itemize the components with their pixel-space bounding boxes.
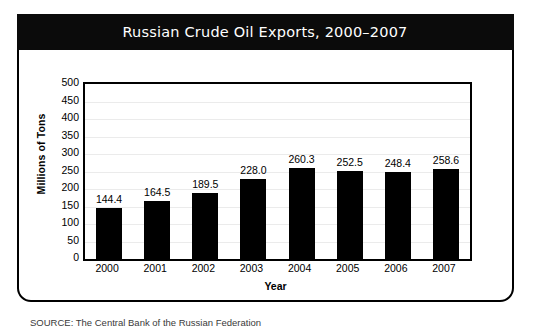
y-axis-tick-label: 400 [61, 111, 79, 123]
x-axis-tick-label: 2003 [240, 262, 263, 274]
x-axis-tick-label: 2001 [144, 262, 167, 274]
y-axis-tick-label: 200 [61, 181, 79, 193]
y-axis-tick-label: 300 [61, 146, 79, 158]
bar[interactable] [144, 201, 170, 259]
bar-value-label: 189.5 [192, 178, 218, 190]
chart-title-banner: Russian Crude Oil Exports, 2000–2007 [17, 14, 514, 50]
bar[interactable] [337, 171, 363, 259]
chart-card: Russian Crude Oil Exports, 2000–2007 Mil… [17, 14, 514, 302]
plot-region: Millions of Tons 50045040035030025020015… [19, 52, 511, 301]
y-axis-tick-label: 50 [67, 234, 79, 246]
y-axis-title: Millions of Tons [35, 99, 47, 209]
page-title: Russian Crude Oil Exports, 2000–2007 [122, 24, 407, 40]
source-note: SOURCE: The Central Bank of the Russian … [30, 317, 261, 328]
y-axis-tick-label: 450 [61, 94, 79, 106]
y-axis-tick-label: 150 [61, 199, 79, 211]
x-axis-tick-label: 2005 [336, 262, 359, 274]
bar[interactable] [192, 193, 218, 259]
bar[interactable] [240, 179, 266, 259]
bar[interactable] [289, 168, 315, 259]
bar-value-label: 144.4 [96, 193, 122, 205]
x-axis-tick-labels: 20002001200220032004200520062007 [83, 262, 468, 278]
x-axis-tick-label: 2000 [95, 262, 118, 274]
bar-value-label: 260.3 [288, 153, 314, 165]
x-axis-tick-label: 2006 [384, 262, 407, 274]
bar-slot: 228.0 [229, 84, 277, 259]
y-axis-tick-label: 350 [61, 129, 79, 141]
bar-slot: 164.5 [133, 84, 181, 259]
x-axis-tick-label: 2004 [288, 262, 311, 274]
y-axis-tick-labels: 500450400350300250200150100500 [47, 82, 79, 257]
x-axis-tick-label: 2002 [192, 262, 215, 274]
bar-slot: 258.6 [422, 84, 470, 259]
bar-slot: 248.4 [374, 84, 422, 259]
y-axis-tick-label: 250 [61, 164, 79, 176]
bar-value-label: 228.0 [240, 164, 266, 176]
y-axis-tick-label: 0 [73, 251, 79, 263]
y-axis-tick-label: 500 [61, 76, 79, 88]
bar-value-label: 258.6 [433, 154, 459, 166]
bar-value-label: 252.5 [337, 156, 363, 168]
bar-slot: 189.5 [181, 84, 229, 259]
bar-value-label: 164.5 [144, 186, 170, 198]
x-axis-tick-label: 2007 [432, 262, 455, 274]
bar[interactable] [385, 172, 411, 259]
plot-area: 144.4164.5189.5228.0260.3252.5248.4258.6 [83, 82, 472, 261]
bar-slot: 252.5 [326, 84, 374, 259]
y-axis-tick-label: 100 [61, 216, 79, 228]
x-axis-title: Year [83, 280, 468, 292]
bar[interactable] [433, 169, 459, 260]
bar-slot: 260.3 [278, 84, 326, 259]
bar-series: 144.4164.5189.5228.0260.3252.5248.4258.6 [85, 84, 470, 259]
bar-value-label: 248.4 [385, 157, 411, 169]
bar-slot: 144.4 [85, 84, 133, 259]
bar[interactable] [96, 208, 122, 259]
